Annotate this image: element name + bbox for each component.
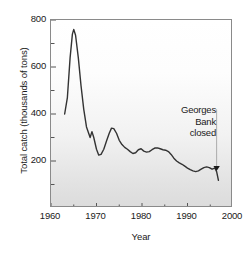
x-axis-label: Year — [50, 231, 232, 242]
y-axis-label: Total catch (thousands of tons) — [18, 26, 29, 196]
annotation-line-1: Georges — [150, 104, 216, 116]
chart-figure: 800 600 400 200 1960 1970 1980 1990 2000… — [0, 0, 251, 262]
x-tick-2000: 2000 — [212, 211, 251, 221]
x-axis-tick-labels: 1960 1970 1980 1990 2000 — [0, 211, 251, 225]
annotation-line-3: closed — [150, 127, 216, 139]
x-tick-1990: 1990 — [167, 211, 207, 221]
x-tick-1960: 1960 — [30, 211, 70, 221]
x-tick-1980: 1980 — [121, 211, 161, 221]
annotation-georges-bank-closed: Georges Bank closed — [150, 104, 216, 139]
x-tick-1970: 1970 — [76, 211, 116, 221]
y-tick-800: 800 — [2, 14, 46, 24]
annotation-line-2: Bank — [150, 116, 216, 128]
